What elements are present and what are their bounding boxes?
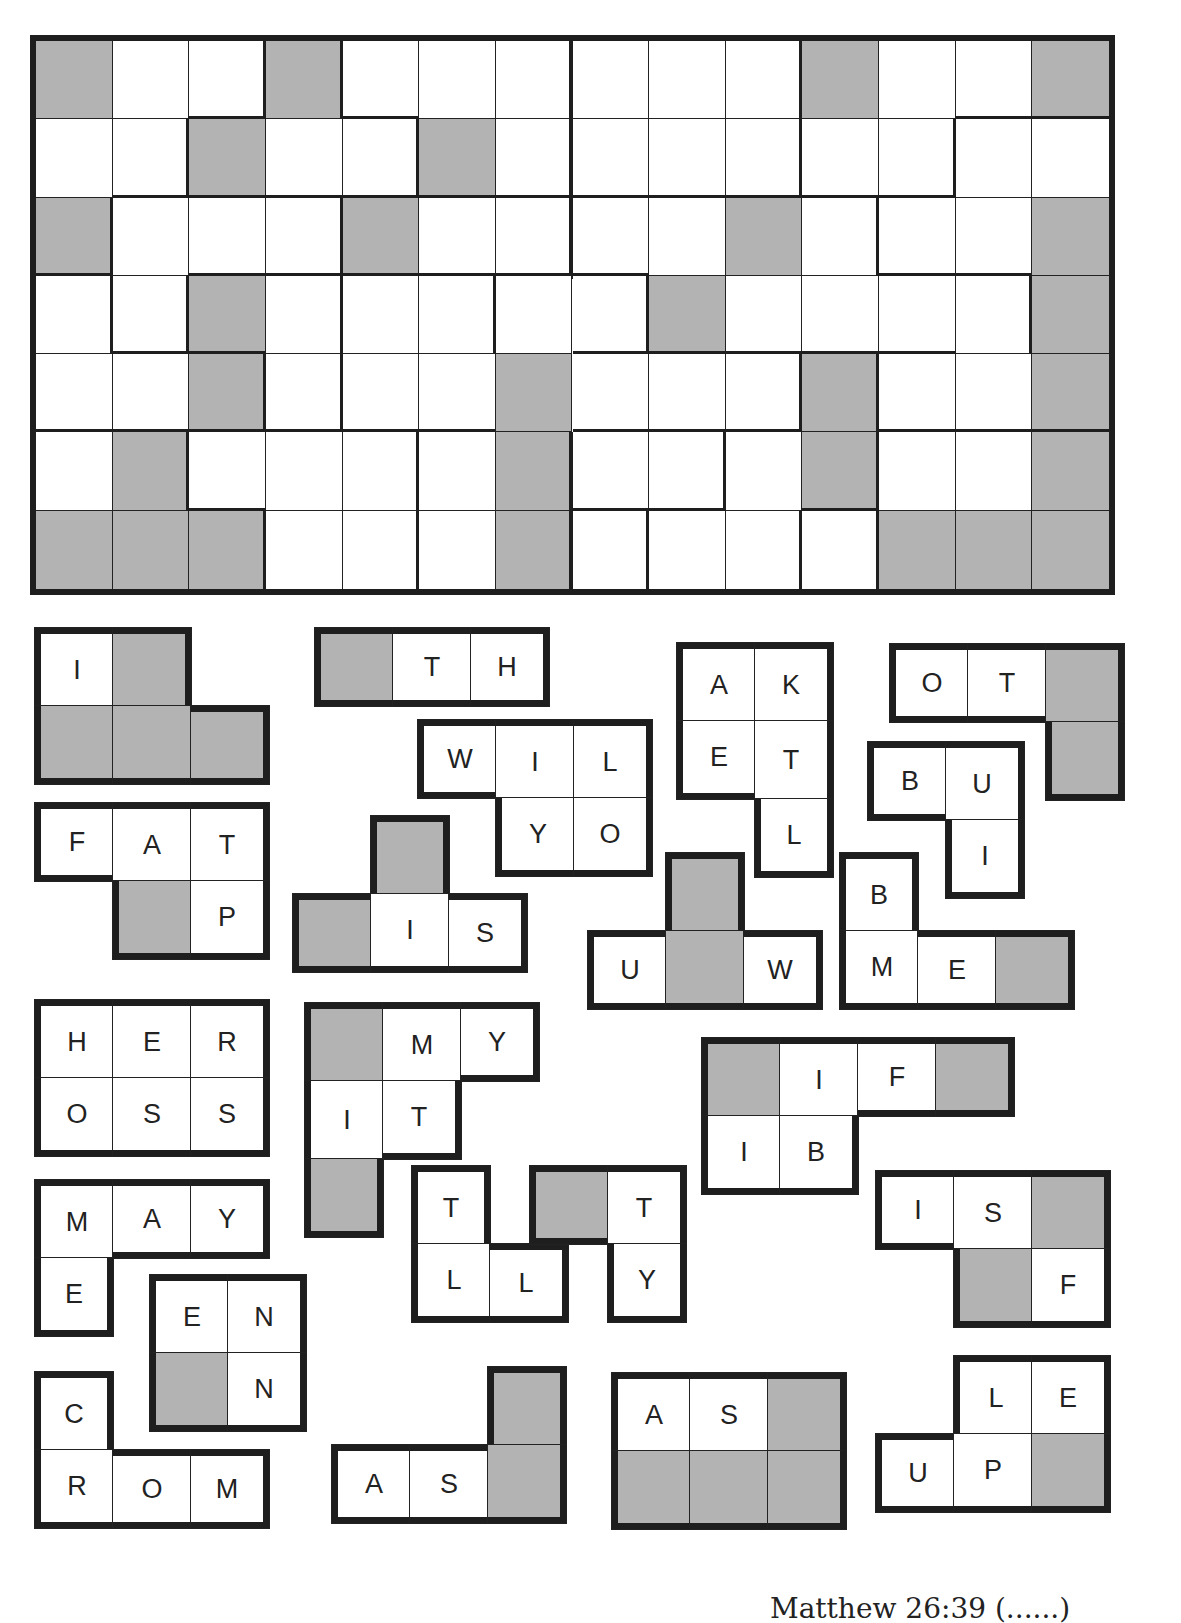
grid-cell[interactable] <box>266 276 346 354</box>
grid-cell-shaded[interactable] <box>1032 511 1109 589</box>
grid-cell[interactable] <box>649 511 726 589</box>
grid-cell[interactable] <box>956 119 1033 197</box>
grid-cell[interactable] <box>266 119 343 200</box>
grid-cell-shaded[interactable] <box>1032 41 1109 122</box>
grid-cell[interactable] <box>649 198 726 276</box>
grid-cell[interactable] <box>726 41 806 119</box>
grid-cell[interactable] <box>573 432 650 513</box>
grid-cell-shaded[interactable] <box>189 511 269 589</box>
grid-cell-shaded[interactable] <box>113 432 193 510</box>
grid-cell[interactable] <box>956 276 1036 354</box>
grid-cell[interactable] <box>419 198 496 279</box>
grid-cell[interactable] <box>726 354 806 435</box>
grid-cell[interactable] <box>36 432 113 510</box>
grid-cell[interactable] <box>266 354 346 435</box>
grid-cell[interactable] <box>266 198 346 279</box>
grid-cell[interactable] <box>726 511 806 589</box>
grid-cell[interactable] <box>573 41 650 119</box>
grid-cell[interactable] <box>113 198 190 276</box>
grid-cell[interactable] <box>879 276 956 357</box>
grid-cell[interactable] <box>879 41 956 119</box>
grid-cell[interactable] <box>36 354 113 435</box>
grid-cell[interactable] <box>649 119 726 200</box>
grid-cell[interactable] <box>649 432 729 513</box>
grid-cell[interactable] <box>726 276 803 357</box>
grid-cell-shaded[interactable] <box>1032 276 1109 354</box>
grid-cell-shaded[interactable] <box>189 276 266 357</box>
grid-cell[interactable] <box>419 432 496 510</box>
grid-cell-shaded[interactable] <box>1032 432 1109 510</box>
grid-cell[interactable] <box>113 41 190 119</box>
grid-cell-shaded[interactable] <box>189 119 266 200</box>
grid-cell-shaded[interactable] <box>189 354 269 435</box>
grid-cell[interactable] <box>343 432 423 510</box>
grid-cell[interactable] <box>189 432 266 513</box>
grid-cell[interactable] <box>343 511 423 589</box>
grid-cell[interactable] <box>496 276 573 354</box>
grid-cell-shaded[interactable] <box>419 119 496 200</box>
piece-cell-letter: Y <box>608 1244 686 1322</box>
grid-cell-shaded[interactable] <box>36 41 113 119</box>
grid-cell[interactable] <box>36 119 113 197</box>
grid-cell-shaded[interactable] <box>1032 198 1109 276</box>
grid-cell-shaded[interactable] <box>726 198 803 276</box>
grid-cell-shaded[interactable] <box>113 511 190 589</box>
grid-cell[interactable] <box>419 354 496 435</box>
grid-cell-shaded[interactable] <box>802 432 882 513</box>
grid-cell[interactable] <box>879 432 956 510</box>
grid-cell[interactable] <box>573 511 653 589</box>
grid-cell[interactable] <box>189 198 266 279</box>
grid-cell[interactable] <box>726 432 803 510</box>
grid-cell[interactable] <box>573 198 650 279</box>
grid-cell-shaded[interactable] <box>956 511 1033 589</box>
grid-cell[interactable] <box>726 119 806 200</box>
grid-cell[interactable] <box>573 276 653 357</box>
grid-cell-shaded[interactable] <box>343 198 420 279</box>
grid-cell[interactable] <box>956 354 1033 435</box>
grid-cell[interactable] <box>419 41 496 119</box>
grid-cell[interactable] <box>879 354 956 435</box>
grid-cell[interactable] <box>956 41 1033 122</box>
grid-cell[interactable] <box>343 276 420 354</box>
grid-cell-shaded[interactable] <box>496 511 576 589</box>
grid-cell[interactable] <box>802 119 879 200</box>
grid-cell[interactable] <box>496 198 576 279</box>
grid-cell[interactable] <box>802 198 882 276</box>
grid-cell[interactable] <box>36 276 116 354</box>
grid-cell[interactable] <box>802 511 882 589</box>
grid-cell[interactable] <box>189 41 269 122</box>
piece-cell-letter: B <box>780 1116 858 1194</box>
grid-cell[interactable] <box>573 354 650 435</box>
grid-cell[interactable] <box>113 119 193 200</box>
grid-cell-shaded[interactable] <box>649 276 726 357</box>
grid-cell[interactable] <box>343 119 423 200</box>
grid-cell[interactable] <box>113 354 190 435</box>
grid-cell[interactable] <box>419 511 496 589</box>
grid-cell[interactable] <box>956 432 1033 510</box>
grid-cell-shaded[interactable] <box>496 432 576 510</box>
grid-cell-shaded[interactable] <box>879 511 956 589</box>
grid-cell[interactable] <box>879 198 956 279</box>
grid-cell-shaded[interactable] <box>36 198 116 279</box>
grid-cell[interactable] <box>956 198 1033 279</box>
grid-cell-shaded[interactable] <box>496 354 573 432</box>
grid-cell[interactable] <box>573 119 650 200</box>
grid-cell[interactable] <box>113 276 193 357</box>
grid-cell[interactable] <box>266 511 343 589</box>
grid-cell[interactable] <box>343 41 420 122</box>
grid-cell-shaded[interactable] <box>36 511 113 589</box>
grid-cell[interactable] <box>419 276 499 354</box>
grid-cell[interactable] <box>1032 119 1109 197</box>
grid-cell[interactable] <box>649 41 726 119</box>
grid-cell[interactable] <box>343 354 420 435</box>
grid-cell[interactable] <box>649 354 726 435</box>
grid-cell[interactable] <box>496 41 576 119</box>
grid-cell[interactable] <box>879 119 959 200</box>
grid-cell-shaded[interactable] <box>802 354 882 432</box>
grid-cell-shaded[interactable] <box>1032 354 1109 435</box>
grid-cell-shaded[interactable] <box>802 41 879 119</box>
grid-cell[interactable] <box>266 432 343 510</box>
grid-cell[interactable] <box>496 119 576 200</box>
grid-cell[interactable] <box>802 276 879 357</box>
grid-cell-shaded[interactable] <box>266 41 346 119</box>
